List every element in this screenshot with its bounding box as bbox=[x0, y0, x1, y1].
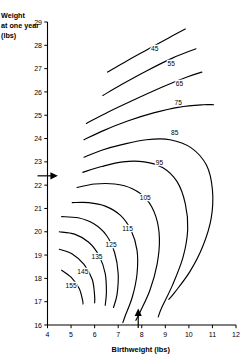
chart-page: 1617181920212223242526272829456789101112… bbox=[0, 0, 244, 358]
contour-chart: 1617181920212223242526272829456789101112… bbox=[0, 0, 244, 358]
x-tick-label: 4 bbox=[46, 331, 50, 338]
contour-label-115: 115 bbox=[122, 225, 133, 232]
marker-arrows bbox=[38, 173, 141, 328]
contour-label-125: 125 bbox=[106, 241, 117, 248]
contour-lines bbox=[59, 29, 213, 323]
contour-line-95 bbox=[83, 161, 188, 317]
x-tick-label: 12 bbox=[232, 331, 240, 338]
x-axis-title: Birthweight (lbs) bbox=[112, 345, 171, 354]
contour-label-155: 155 bbox=[66, 282, 77, 289]
x-tick-label: 5 bbox=[69, 331, 73, 338]
x-tick-label: 10 bbox=[185, 331, 193, 338]
y-tick-label: 16 bbox=[34, 322, 42, 329]
y-tick-label: 26 bbox=[34, 89, 42, 96]
contour-label-145: 145 bbox=[77, 268, 88, 275]
contour-label-55: 55 bbox=[168, 60, 176, 67]
y-tick-label: 20 bbox=[34, 228, 42, 235]
y-tick-label: 28 bbox=[34, 42, 42, 49]
x-tick-label: 8 bbox=[140, 331, 144, 338]
y-tick-label: 27 bbox=[34, 65, 42, 72]
contour-line-75 bbox=[84, 105, 214, 140]
contour-label-75: 75 bbox=[175, 99, 183, 106]
y-tick-label: 23 bbox=[34, 158, 42, 165]
contour-label-135: 135 bbox=[91, 253, 102, 260]
contour-label-95: 95 bbox=[156, 159, 164, 166]
y-tick-label: 19 bbox=[34, 252, 42, 259]
y-tick-label: 22 bbox=[34, 182, 42, 189]
x-tick-label: 6 bbox=[93, 331, 97, 338]
y-axis-title-line: Weight bbox=[1, 11, 25, 20]
contour-label-65: 65 bbox=[176, 80, 184, 87]
y-axis-title-line: (lbs) bbox=[1, 31, 17, 40]
y-tick-label: 17 bbox=[34, 298, 42, 305]
contour-line-125 bbox=[62, 217, 119, 308]
contour-label-45: 45 bbox=[151, 45, 159, 52]
x-tick-label: 7 bbox=[116, 331, 120, 338]
contour-label-105: 105 bbox=[140, 194, 151, 201]
y-marker-arrow-head bbox=[51, 173, 57, 178]
y-tick-label: 25 bbox=[34, 112, 42, 119]
x-tick-label: 11 bbox=[209, 331, 216, 338]
y-tick-label: 21 bbox=[34, 205, 42, 212]
contour-labels: 4545555565657575858595951051051151151251… bbox=[66, 45, 184, 289]
x-tick-label: 9 bbox=[163, 331, 167, 338]
axes: 1617181920212223242526272829456789101112 bbox=[34, 19, 240, 338]
y-tick-label: 18 bbox=[34, 275, 42, 282]
contour-line-55 bbox=[103, 49, 196, 96]
contour-label-85: 85 bbox=[171, 129, 179, 136]
y-axis-title-line: at one year bbox=[1, 21, 39, 30]
contour-line-105 bbox=[77, 183, 159, 320]
y-tick-label: 24 bbox=[34, 135, 42, 142]
contour-line-145 bbox=[59, 249, 95, 303]
